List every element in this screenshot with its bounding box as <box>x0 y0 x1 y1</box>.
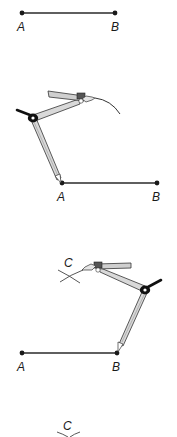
compass-icon <box>82 262 161 352</box>
arc-from-b <box>60 270 83 282</box>
label-c: C <box>64 256 73 270</box>
point-b <box>113 11 118 16</box>
pencil-tip <box>82 264 96 270</box>
compass-handle <box>17 110 30 115</box>
point-b <box>155 181 160 186</box>
point-a <box>20 351 25 356</box>
point-a <box>20 11 25 16</box>
pencil-arm <box>33 99 80 121</box>
compass-construction-diagram: A B A B <box>0 0 177 437</box>
step-1-segment-ab: A B <box>16 11 119 34</box>
needle-tip <box>118 342 123 352</box>
step-2-compass-at-a: A B <box>17 91 160 204</box>
label-c: C <box>63 419 72 433</box>
label-b: B <box>112 360 120 374</box>
pencil-arm <box>98 267 145 292</box>
drawn-arc <box>95 98 120 114</box>
label-b: B <box>111 20 119 34</box>
step-4-point-c: C <box>57 419 80 437</box>
label-a: A <box>56 190 65 204</box>
needle-tip <box>55 174 61 183</box>
label-a: A <box>16 360 25 374</box>
compass-handle <box>148 280 161 287</box>
label-a: A <box>16 20 25 34</box>
step-3-compass-at-b: A B C <box>16 256 161 374</box>
compass-icon <box>17 91 95 183</box>
label-b: B <box>152 190 160 204</box>
